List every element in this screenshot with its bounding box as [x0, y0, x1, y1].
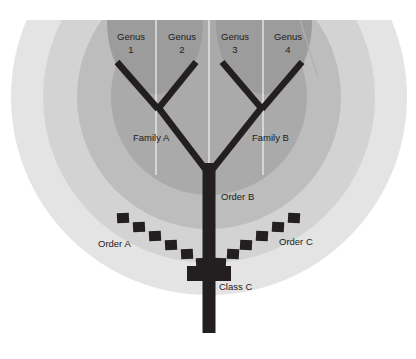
taxonomy-tree-svg: Genus 1 Genus 2 Genus 3 Genus 4 Family A…: [0, 0, 416, 359]
genus-2-label-line2: 2: [179, 44, 184, 55]
dash-left-4: [165, 240, 178, 251]
genus-1-label-line1: Genus: [117, 31, 145, 42]
dash-left-1: [117, 213, 130, 224]
genus-4-label-line2: 4: [285, 44, 290, 55]
dash-left-3: [149, 231, 162, 242]
dash-right-5: [227, 249, 240, 260]
dash-right-1: [288, 213, 301, 224]
order-a-label: Order A: [98, 238, 131, 249]
dash-left-6: [196, 258, 209, 269]
order-c-label: Order C: [279, 236, 313, 247]
genus-2-label-line1: Genus: [168, 31, 196, 42]
dash-right-6: [214, 258, 227, 269]
order-b-label: Order B: [221, 191, 254, 202]
family-b-label: Family B: [252, 132, 289, 143]
genus-3-label-line2: 3: [232, 44, 237, 55]
family-a-label: Family A: [133, 132, 170, 143]
class-c-label: Class C: [219, 281, 252, 292]
genus-1-label-line2: 1: [128, 44, 133, 55]
dash-left-5: [181, 249, 194, 260]
dash-right-3: [256, 231, 269, 242]
genus-4-label-line1: Genus: [274, 31, 302, 42]
dash-left-2: [133, 222, 146, 233]
class-c-node: [187, 266, 231, 281]
dash-right-2: [272, 222, 285, 233]
diagram-canvas: Genus 1 Genus 2 Genus 3 Genus 4 Family A…: [0, 0, 416, 359]
genus-3-label-line1: Genus: [221, 31, 249, 42]
dash-right-4: [240, 240, 253, 251]
main-trunk: [203, 163, 216, 333]
